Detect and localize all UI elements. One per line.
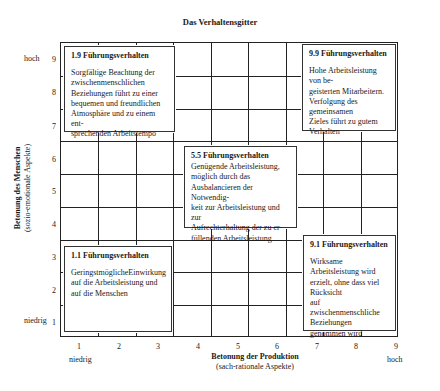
x-tick: 1 bbox=[74, 342, 84, 351]
diagram-title: Das Verhaltensgitter bbox=[0, 17, 440, 27]
x-tick: 3 bbox=[153, 342, 163, 351]
box-9-9: 9.9 Führungsverhalten Hohe Arbeitsleistu… bbox=[302, 44, 396, 131]
box-1-9-text: Sorgfältige Beachtung der zwischenmensch… bbox=[71, 68, 168, 139]
y-tick: 2 bbox=[50, 286, 58, 295]
x-tick: 5 bbox=[233, 342, 243, 351]
box-9-9-text: Hohe Arbeitsleistung von be- geisterten … bbox=[309, 66, 389, 137]
y-axis-title: Betonung des Menschen bbox=[13, 103, 23, 273]
x-axis-subtitle: (sach-rationale Aspekte) bbox=[180, 362, 330, 372]
y-tick: 9 bbox=[50, 55, 58, 64]
x-low-label: niedrig bbox=[69, 355, 92, 364]
y-tick: 4 bbox=[50, 220, 58, 229]
box-9-1: 9.1 Führungsverhalten Wirksame Arbeitsle… bbox=[303, 235, 396, 331]
y-tick: 8 bbox=[50, 88, 58, 97]
y-high-label: hoch bbox=[24, 54, 40, 63]
box-1-1: 1.1 Führungsverhalten GeringstmöglicheEi… bbox=[64, 246, 172, 332]
x-tick: 8 bbox=[351, 342, 361, 351]
y-tick: 5 bbox=[50, 187, 58, 196]
box-9-1-heading: 9.1 Führungsverhalten bbox=[310, 240, 389, 250]
box-1-9-heading: 1.9 Führungsverhalten bbox=[71, 51, 168, 61]
box-9-1-text: Wirksame Arbeitsleistung wird erzielt, o… bbox=[310, 257, 389, 339]
box-1-9: 1.9 Führungsverhalten Sorgfältige Beacht… bbox=[64, 46, 175, 132]
box-5-5-heading: 5.5 Führungsverhalten bbox=[191, 151, 290, 161]
x-tick: 2 bbox=[114, 342, 124, 351]
box-1-1-text: GeringstmöglicheEinwirkung auf die Arbei… bbox=[71, 268, 165, 299]
y-axis-label: Betonung des Menschen (sozio-emotionale … bbox=[13, 103, 33, 273]
grid-line bbox=[61, 141, 397, 142]
y-low-label: niedrig bbox=[24, 316, 47, 325]
x-tick: 7 bbox=[312, 342, 322, 351]
x-axis-label: Betonung der Produktion (sach-rationale … bbox=[180, 352, 330, 372]
box-5-5: 5.5 Führungsverhalten Genügende Arbeitsl… bbox=[184, 146, 297, 228]
y-tick: 7 bbox=[50, 122, 58, 131]
box-9-9-heading: 9.9 Führungsverhalten bbox=[309, 49, 389, 59]
box-1-1-heading: 1.1 Führungsverhalten bbox=[71, 251, 165, 261]
y-tick: 3 bbox=[50, 253, 58, 262]
y-tick: 6 bbox=[50, 155, 58, 164]
x-tick: 6 bbox=[272, 342, 282, 351]
box-5-5-text: Genügende Arbeitsleistung, möglich durch… bbox=[191, 162, 290, 244]
y-tick: 1 bbox=[50, 318, 58, 327]
x-tick: 9 bbox=[391, 342, 401, 351]
y-axis-subtitle: (sozio-emotionale Aspekte) bbox=[23, 103, 33, 273]
x-tick: 4 bbox=[193, 342, 203, 351]
x-axis-title: Betonung der Produktion bbox=[180, 352, 330, 362]
x-high-label: hoch bbox=[387, 355, 403, 364]
